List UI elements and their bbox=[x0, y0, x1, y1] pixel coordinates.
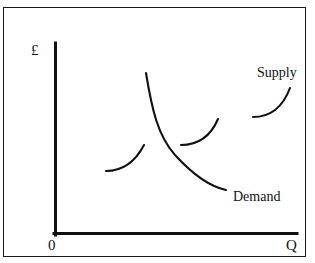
supply-curve-right bbox=[253, 88, 290, 117]
origin-label: 0 bbox=[48, 238, 56, 253]
supply-curve-left bbox=[106, 145, 144, 171]
x-axis-label-quantity: Q bbox=[286, 238, 297, 253]
plot-canvas bbox=[0, 0, 315, 263]
supply-curve-label: Supply bbox=[257, 66, 297, 80]
figure-container: £ 0 Q Supply Demand bbox=[0, 0, 315, 263]
demand-curve-label: Demand bbox=[233, 190, 280, 204]
supply-curve-middle bbox=[181, 119, 218, 145]
y-axis-label-pound: £ bbox=[31, 43, 39, 58]
demand-curve bbox=[146, 73, 226, 190]
